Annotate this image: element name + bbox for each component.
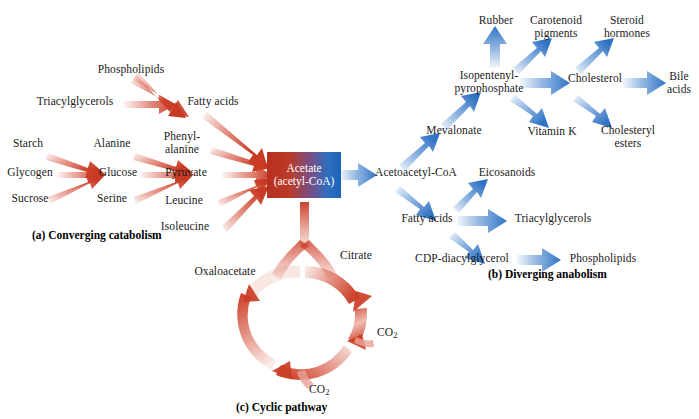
node-cholesterol: Cholesterol bbox=[563, 72, 627, 84]
node-rubber: Rubber bbox=[468, 14, 524, 26]
node-fatty-acids: Fatty acids bbox=[177, 95, 249, 107]
node-cdp-diacylglycerol: CDP-diacylglycerol bbox=[406, 252, 518, 264]
node-mevalonate: Mevalonate bbox=[418, 124, 490, 136]
node-alanine: Alanine bbox=[85, 137, 139, 149]
arrow-triacylglycerols-to-fatty-acids bbox=[124, 95, 176, 114]
node-triacylglycerols-anabolic: Triacylglycerols bbox=[507, 212, 599, 224]
arrow-cholesterol-to-bile-acids bbox=[623, 71, 666, 95]
center-node-line2: (acetyl-CoA) bbox=[274, 175, 335, 188]
node-bile-acids: Bile acids bbox=[661, 70, 697, 95]
node-citrate: Citrate bbox=[330, 249, 382, 261]
cycle-arc-right bbox=[347, 308, 374, 350]
node-acetoacetyl-coa: Acetoacetyl-CoA bbox=[372, 166, 460, 178]
node-isoleucine: Isoleucine bbox=[153, 220, 217, 232]
cycle-arc-left bbox=[237, 284, 276, 370]
center-node-acetate: Acetate (acetyl-CoA) bbox=[267, 152, 341, 198]
caption-c: (c) Cyclic pathway bbox=[236, 401, 327, 413]
arrow-fatty-acids-to-eicosanoids bbox=[453, 179, 488, 213]
label-co2-upper: CO2 bbox=[377, 326, 411, 340]
node-cholesteryl-esters: Cholesteryl esters bbox=[595, 124, 661, 149]
node-isopentenyl-pyrophosphate: Isopentenyl- pyrophosphate bbox=[452, 69, 526, 94]
node-carotenoid-pigments: Carotenoid pigments bbox=[524, 14, 588, 39]
node-steroid-hormones: Steroid hormones bbox=[598, 14, 656, 39]
arrow-isopentenyl-to-rubber bbox=[483, 26, 507, 68]
node-oxaloacetate: Oxaloacetate bbox=[183, 265, 267, 277]
node-glycogen: Glycogen bbox=[0, 166, 60, 178]
node-fatty-acids-anabolic: Fatty acids bbox=[392, 212, 462, 224]
co2-lower-subscript: 2 bbox=[325, 387, 329, 397]
node-phospholipids: Phospholipids bbox=[85, 63, 177, 75]
co2-upper-subscript: 2 bbox=[393, 330, 397, 340]
node-sucrose: Sucrose bbox=[5, 192, 55, 204]
node-phenylalanine: Phenyl- alanine bbox=[154, 130, 210, 155]
arrow-fatty-acids-to-triacylglycerols bbox=[457, 209, 507, 233]
node-glucose: Glucose bbox=[93, 166, 143, 178]
node-eicosanoids: Eicosanoids bbox=[470, 166, 544, 178]
cycle-arc-top-right bbox=[305, 266, 372, 312]
center-node-line1: Acetate bbox=[286, 162, 321, 175]
label-co2-lower: CO2 bbox=[309, 383, 343, 397]
caption-b: (b) Diverging anabolism bbox=[488, 268, 607, 280]
node-leucine: Leucine bbox=[157, 194, 211, 206]
node-pyruvate: Pyruvate bbox=[157, 166, 215, 178]
arrow-isopentenyl-to-vitamin-k bbox=[510, 95, 549, 128]
node-vitamin-k: Vitamin K bbox=[521, 125, 583, 137]
co2-lower-text: CO bbox=[309, 383, 325, 395]
node-phospholipids-anabolic: Phospholipids bbox=[560, 252, 646, 264]
node-serine: Serine bbox=[89, 192, 135, 204]
arrow-cholesterol-to-steroid-hormones bbox=[575, 38, 614, 74]
caption-a: (a) Converging catabolism bbox=[32, 229, 162, 241]
node-starch: Starch bbox=[5, 137, 51, 149]
node-triacylglycerols: Triacylglycerols bbox=[25, 95, 125, 107]
metabolism-figure: Acetate (acetyl-CoA) Phospholipids Triac… bbox=[0, 0, 699, 419]
co2-upper-text: CO bbox=[377, 326, 393, 338]
